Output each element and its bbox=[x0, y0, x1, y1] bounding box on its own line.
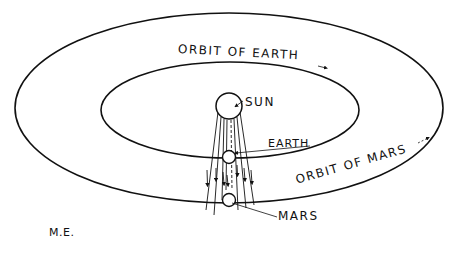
earth-label: EARTH bbox=[268, 137, 309, 150]
mars-label: MARS bbox=[278, 209, 319, 223]
author-initials: M.E. bbox=[49, 226, 74, 239]
earth-circle bbox=[223, 151, 236, 164]
sun-label: SUN bbox=[245, 95, 275, 109]
orbit-diagram-svg bbox=[0, 0, 454, 254]
sun-circle bbox=[216, 93, 242, 119]
mars-circle bbox=[223, 194, 236, 207]
leader-lines bbox=[232, 66, 428, 217]
